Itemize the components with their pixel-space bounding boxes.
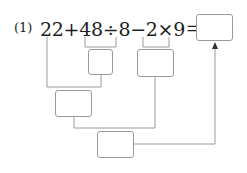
product-box[interactable] bbox=[137, 49, 174, 77]
sum-box[interactable] bbox=[55, 90, 92, 117]
answer-box[interactable] bbox=[196, 14, 233, 41]
bracket-division bbox=[85, 37, 116, 47]
bracket-multiplication bbox=[143, 37, 169, 47]
arrow-up-icon bbox=[212, 42, 218, 49]
difference-box[interactable] bbox=[97, 131, 134, 158]
quotient-box[interactable] bbox=[88, 49, 113, 75]
